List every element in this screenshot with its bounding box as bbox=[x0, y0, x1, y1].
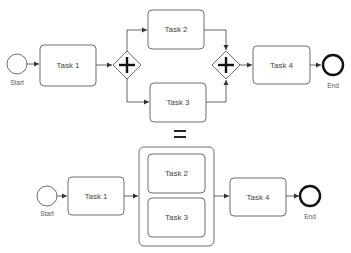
top-start-label: Start bbox=[10, 79, 24, 86]
top-task-3-label: Task 3 bbox=[166, 98, 190, 107]
bottom-task-3-label: Task 3 bbox=[165, 213, 189, 222]
parallel-container[interactable]: Task 2 Task 3 bbox=[139, 147, 214, 246]
bottom-task-1-label: Task 1 bbox=[84, 192, 108, 201]
bottom-task-3[interactable]: Task 3 bbox=[148, 198, 205, 237]
top-split-gateway[interactable] bbox=[113, 51, 141, 79]
bottom-task-2-label: Task 2 bbox=[165, 169, 189, 178]
bottom-start-label: Start bbox=[40, 210, 54, 217]
bottom-task-4[interactable]: Task 4 bbox=[230, 178, 286, 216]
top-task-2[interactable]: Task 2 bbox=[148, 10, 204, 49]
bottom-process: Start Task 1 Task 2 Task 3 Task 4 bbox=[37, 147, 320, 246]
bottom-end-event[interactable]: End bbox=[300, 186, 320, 220]
bottom-start-event[interactable]: Start bbox=[37, 186, 57, 217]
top-flow-task3-join bbox=[206, 80, 226, 102]
top-flow-task2-join bbox=[204, 30, 226, 50]
top-task-4[interactable]: Task 4 bbox=[253, 46, 310, 84]
bpmn-diagram: Start Task 1 Task 2 Task 3 bbox=[0, 0, 351, 253]
top-join-gateway[interactable] bbox=[212, 51, 240, 79]
top-flow-split-task3 bbox=[127, 79, 149, 102]
top-flow-split-task2 bbox=[127, 30, 147, 51]
top-task-4-label: Task 4 bbox=[270, 61, 294, 70]
top-process: Start Task 1 Task 2 Task 3 bbox=[7, 10, 343, 122]
top-start-event[interactable]: Start bbox=[7, 54, 27, 86]
top-task-1-label: Task 1 bbox=[56, 61, 80, 70]
bottom-task-1[interactable]: Task 1 bbox=[68, 177, 124, 215]
top-task-3[interactable]: Task 3 bbox=[150, 83, 206, 122]
bottom-task-4-label: Task 4 bbox=[246, 193, 270, 202]
bottom-task-2[interactable]: Task 2 bbox=[148, 154, 205, 193]
top-end-label: End bbox=[327, 82, 339, 89]
top-end-event[interactable]: End bbox=[323, 55, 343, 89]
top-task-1[interactable]: Task 1 bbox=[40, 45, 96, 86]
top-task-2-label: Task 2 bbox=[164, 25, 188, 34]
bottom-end-label: End bbox=[304, 213, 316, 220]
equals-sign bbox=[174, 131, 186, 137]
